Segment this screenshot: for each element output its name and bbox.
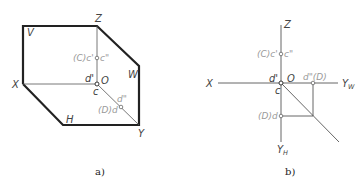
- label-c-right: c": [100, 53, 109, 63]
- caption-a: a): [95, 166, 105, 177]
- label-c-lower: c: [93, 86, 99, 97]
- label-d-double: d": [117, 94, 127, 104]
- caption-b: b): [285, 166, 295, 177]
- outline-box: [23, 26, 139, 125]
- point-c-double: [279, 52, 283, 56]
- label-x-b: X: [205, 78, 214, 89]
- point-c-prime: [95, 56, 99, 60]
- label-v: V: [27, 27, 35, 38]
- label-d-double-b: d"(D): [303, 72, 327, 82]
- label-yh-sub: H: [283, 149, 288, 157]
- label-origin-b: O: [287, 73, 295, 84]
- label-c-left: (C)c': [73, 53, 94, 63]
- label-d-b: (D)d: [258, 111, 278, 121]
- figure-a: Z V X W H Y O d' c (C)c' c" d" (D)d a): [11, 13, 145, 177]
- point-d-b: [279, 114, 283, 118]
- label-c-lower-b: c: [275, 85, 281, 96]
- label-origin: O: [101, 75, 109, 86]
- label-h: H: [66, 114, 74, 125]
- label-c-right-b: c": [284, 49, 293, 59]
- label-c-left-b: (C)c': [257, 49, 278, 59]
- label-d-prime: d': [85, 73, 94, 84]
- label-z-b: Z: [283, 19, 292, 30]
- diagonal-45: [281, 83, 339, 142]
- label-yw: YW: [342, 78, 355, 91]
- label-d-prime-b: d': [269, 73, 278, 84]
- label-z: Z: [94, 13, 103, 24]
- label-x: X: [11, 79, 20, 90]
- label-d: (D)d: [98, 105, 118, 115]
- projection-diagram: Z V X W H Y O d' c (C)c' c" d" (D)d a) Z…: [0, 0, 361, 186]
- label-y: Y: [138, 128, 145, 139]
- label-yh: YH: [277, 144, 288, 157]
- figure-b: Z X YW YH O d' c (C)c' c" d"(D) (D)d b): [205, 19, 355, 177]
- point-d: [119, 105, 123, 109]
- label-w: W: [128, 69, 139, 80]
- label-yw-sub: W: [348, 83, 355, 91]
